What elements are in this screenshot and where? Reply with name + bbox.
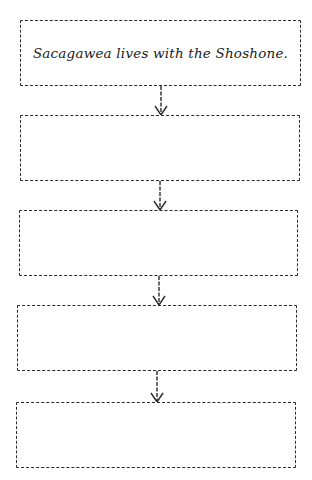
flow-box-1-text: Sacagawea lives with the Shoshone. [33,45,288,61]
connector-3 [152,276,166,306]
down-arrow-icon [150,371,164,403]
connector-1 [154,86,168,116]
flow-box-3 [19,210,298,276]
flow-box-5 [16,402,296,468]
down-arrow-icon [153,181,167,211]
flow-box-2 [20,115,300,181]
flow-box-4 [17,305,297,371]
connector-4 [150,371,164,403]
flow-box-1: Sacagawea lives with the Shoshone. [20,20,301,86]
connector-2 [153,181,167,211]
down-arrow-icon [154,86,168,116]
down-arrow-icon [152,276,166,306]
cropped-text-fragment [52,0,92,4]
